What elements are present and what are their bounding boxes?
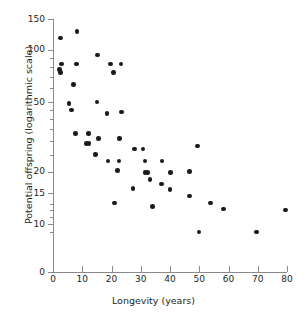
data-point bbox=[119, 110, 124, 115]
data-point bbox=[108, 62, 113, 67]
data-point bbox=[67, 101, 72, 106]
data-point bbox=[283, 208, 288, 213]
data-point bbox=[95, 53, 100, 58]
data-point bbox=[160, 159, 165, 164]
data-point bbox=[111, 70, 116, 75]
data-point bbox=[187, 194, 192, 199]
data-point bbox=[195, 144, 200, 149]
data-point bbox=[87, 141, 92, 146]
data-point bbox=[71, 82, 76, 87]
data-point bbox=[95, 100, 100, 105]
y-axis-title: Potential offspring (logarithmic scale) bbox=[24, 10, 34, 260]
data-point bbox=[159, 182, 164, 187]
data-point bbox=[58, 70, 63, 75]
data-point bbox=[150, 204, 155, 209]
data-point bbox=[168, 170, 173, 175]
data-point bbox=[197, 230, 202, 235]
data-point bbox=[93, 152, 98, 157]
data-point bbox=[59, 62, 64, 67]
data-point bbox=[145, 170, 150, 175]
data-point bbox=[131, 186, 136, 191]
data-point bbox=[86, 131, 91, 136]
data-point bbox=[75, 29, 80, 34]
data-point bbox=[74, 62, 79, 67]
data-point bbox=[105, 111, 110, 116]
data-point bbox=[115, 168, 120, 173]
data-point bbox=[254, 230, 259, 235]
data-point bbox=[106, 159, 111, 164]
data-point bbox=[69, 108, 74, 113]
data-point bbox=[58, 36, 63, 41]
data-point bbox=[117, 136, 122, 141]
data-point bbox=[132, 147, 137, 152]
data-point bbox=[168, 187, 173, 192]
x-axis-title: Longevity (years) bbox=[0, 296, 307, 306]
data-point bbox=[73, 131, 78, 136]
data-point bbox=[117, 159, 122, 164]
data-point bbox=[221, 207, 226, 212]
data-points-layer bbox=[0, 0, 307, 321]
data-point bbox=[187, 169, 192, 174]
data-point bbox=[148, 177, 153, 182]
scatter-plot-figure: 15010050201510001020304050607080 Longevi… bbox=[0, 0, 307, 321]
data-point bbox=[143, 159, 148, 164]
data-point bbox=[141, 147, 146, 152]
data-point bbox=[112, 201, 117, 206]
data-point bbox=[119, 62, 124, 67]
data-point bbox=[96, 136, 101, 141]
data-point bbox=[208, 201, 213, 206]
